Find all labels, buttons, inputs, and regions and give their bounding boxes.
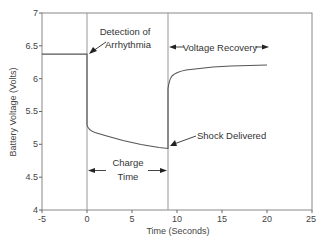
x-axis-title: Time (Seconds) [146,226,209,236]
y-tick-label: 7 [33,8,38,18]
annotation-detection-line1: Detection of [100,26,151,37]
x-tick-label: 25 [306,214,316,224]
y-tick-label: 6 [33,74,38,84]
annotation-charge-line2: Time [118,171,139,182]
y-tick-label: 5.5 [25,106,38,116]
x-tick-label: -5 [38,214,46,224]
chart: 4 4.5 5 5.5 6 6.5 7 -5 0 5 10 15 20 25 T… [0,0,326,241]
plot-frame [42,13,312,210]
annotation-detection-line2: Arrhythmia [105,39,152,50]
x-tick-label: 15 [217,214,227,224]
y-axis-title: Battery Voltage (Volts) [8,67,18,156]
annotation-shock-delivered: Shock Delivered [197,130,266,141]
y-tick-label: 5 [33,139,38,149]
annotation-voltage-recovery: Voltage Recovery [183,42,258,53]
arrow-icon [170,136,196,146]
y-tick-label: 6.5 [25,41,38,51]
x-tick-label: 20 [262,214,272,224]
x-tick-label: 10 [172,214,182,224]
y-tick-label: 4.5 [25,172,38,182]
annotation-charge-line1: Charge [112,157,143,168]
x-tick-label: 5 [129,214,134,224]
arrow-icon [89,42,106,54]
x-tick-label: 0 [84,214,89,224]
